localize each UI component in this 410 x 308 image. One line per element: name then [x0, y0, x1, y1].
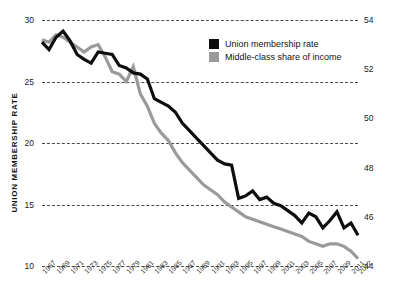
legend-item-label: Union membership rate [225, 40, 319, 49]
right-axis-tick-label: 50 [364, 114, 373, 123]
legend-item-label: Middle-class share of income [225, 53, 342, 62]
legend-swatch-icon [209, 39, 219, 49]
left-axis-tick-label: 30 [25, 16, 34, 25]
right-axis-tick-label: 54 [364, 16, 373, 25]
left-axis-title: UNION MEMBERSHIP RATE [10, 73, 19, 233]
legend-item: Union membership rate [209, 39, 342, 49]
legend-swatch-icon [209, 52, 219, 62]
chart-figure: 3025201510 UNION MEMBERSHIP RATE 5452504… [0, 0, 410, 308]
x-axis-tick-labels: 1967196919711973197519771979198119831985… [0, 268, 410, 308]
left-axis-tick-label: 25 [25, 78, 34, 87]
series-line [42, 35, 358, 259]
right-axis-tick-label: 52 [364, 65, 373, 74]
chart-legend: Union membership rateMiddle-class share … [209, 39, 342, 65]
legend-item: Middle-class share of income [209, 52, 342, 62]
left-axis-tick-label: 15 [25, 201, 34, 210]
clipped-title-remnant [0, 0, 410, 6]
right-axis-tick-label: 48 [364, 164, 373, 173]
right-axis-tick-label: 46 [364, 213, 373, 222]
left-axis-tick-label: 20 [25, 139, 34, 148]
